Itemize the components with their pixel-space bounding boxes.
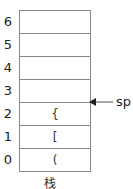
stack-cell-0: (: [20, 149, 90, 172]
stack-pointer-label: sp: [116, 94, 131, 109]
index-label-1: 1: [2, 129, 14, 144]
stack-cell-5: [20, 34, 90, 57]
index-label-0: 0: [2, 152, 14, 167]
stack-cell-1: [: [20, 126, 90, 149]
index-label-5: 5: [2, 37, 14, 52]
index-label-4: 4: [2, 60, 14, 75]
pointer-arrow-icon: [89, 97, 113, 107]
index-label-6: 6: [2, 14, 14, 29]
stack-box: { [ (: [19, 10, 91, 172]
stack-cell-4: [20, 57, 90, 80]
stack-cell-3: [20, 80, 90, 103]
stack-caption: 栈: [44, 174, 56, 189]
stack-cell-6: [20, 11, 90, 34]
index-label-3: 3: [2, 83, 14, 98]
stack-cell-2: {: [20, 103, 90, 126]
index-label-2: 2: [2, 106, 14, 121]
